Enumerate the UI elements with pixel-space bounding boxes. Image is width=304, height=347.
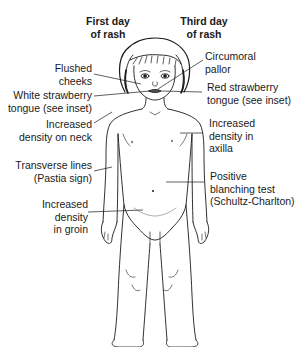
- label-increased-density-groin: Increased density in groin: [42, 198, 88, 236]
- label-white-strawberry-tongue: White strawberry tongue (see inset): [8, 89, 92, 114]
- leader-lines: [88, 60, 204, 212]
- label-increased-density-neck: Increased density on neck: [19, 118, 92, 143]
- label-circumoral-pallor: Circumoral pallor: [205, 50, 256, 75]
- leader-neck: [94, 112, 112, 123]
- label-increased-density-axilla: Increased density in axilla: [209, 117, 255, 155]
- leader-transverse: [94, 167, 112, 171]
- label-red-strawberry-tongue: Red strawberry tongue (see inset): [207, 81, 291, 106]
- header-first-day: First day of rash: [78, 15, 138, 40]
- leader-red-tongue: [161, 91, 202, 92]
- label-positive-blanching-test: Positive blanching test (Schultz-Charlto…: [210, 170, 295, 208]
- label-flushed-cheeks: Flushed cheeks: [55, 62, 92, 87]
- torso-outline: [103, 109, 142, 222]
- hair: [120, 38, 190, 92]
- header-third-day: Third day of rash: [172, 15, 236, 40]
- label-transverse-lines: Transverse lines (Pastia sign): [15, 159, 92, 184]
- leader-groin: [88, 210, 143, 212]
- legs-outline: [114, 205, 124, 340]
